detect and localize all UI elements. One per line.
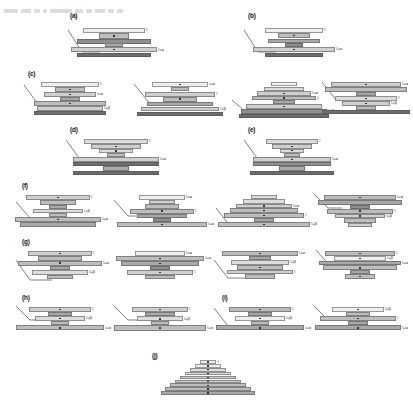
panel-h1: (h)II+βI+α bbox=[12, 294, 116, 344]
layer-label: I bbox=[195, 209, 196, 213]
center-marker-dot bbox=[59, 262, 61, 264]
layer-label: I+α bbox=[186, 195, 192, 199]
center-marker-dot bbox=[357, 327, 359, 329]
panel-f1: (f)II+βI+α bbox=[12, 182, 116, 232]
layer-label: I+β bbox=[290, 260, 296, 264]
layer-label: I bbox=[216, 92, 217, 96]
layer-label: I bbox=[317, 96, 318, 100]
layer-label: I+β bbox=[184, 317, 190, 321]
center-marker-dot bbox=[115, 146, 117, 148]
layer-bar bbox=[250, 171, 334, 175]
center-marker-dot bbox=[57, 197, 59, 199]
panel-d: (d)II+α bbox=[60, 126, 180, 176]
center-marker-dot bbox=[159, 272, 161, 274]
panel-f3: I+αII+β bbox=[214, 182, 318, 232]
center-marker-dot bbox=[59, 253, 61, 255]
layer-label: I+α bbox=[158, 48, 164, 52]
header-strip-segment bbox=[34, 9, 40, 13]
layer-label: I bbox=[394, 209, 395, 213]
layer-label: I bbox=[93, 251, 94, 255]
center-marker-dot bbox=[207, 381, 209, 383]
layer-label: I+β bbox=[286, 316, 292, 320]
center-marker-dot bbox=[207, 385, 209, 387]
center-marker-dot bbox=[263, 205, 265, 207]
panel-c4: I+αII+β bbox=[320, 70, 412, 122]
panel-c2: I+αII+β bbox=[128, 70, 238, 122]
panel-j: (j)I bbox=[160, 352, 256, 396]
layer-label: I+α bbox=[205, 256, 211, 260]
center-marker-dot bbox=[159, 327, 161, 329]
layer-label: I+α bbox=[332, 157, 338, 161]
panel-a: (a)II+α bbox=[60, 12, 180, 64]
header-strip-segment bbox=[4, 9, 18, 13]
center-marker-dot bbox=[283, 97, 285, 99]
layer-label: I+β bbox=[89, 270, 95, 274]
layer-bar bbox=[145, 275, 175, 279]
layer-label: I bbox=[398, 96, 399, 100]
center-marker-dot bbox=[113, 35, 115, 37]
center-marker-dot bbox=[207, 365, 209, 367]
layer-label: I+α bbox=[103, 261, 109, 265]
layer-label: I bbox=[146, 28, 147, 32]
center-marker-dot bbox=[207, 388, 209, 390]
layer-label: I bbox=[324, 28, 325, 32]
panel-i2: I+βII+α bbox=[312, 294, 412, 344]
layer-bar bbox=[348, 223, 372, 227]
center-marker-dot bbox=[207, 361, 209, 363]
layer-label: I bbox=[92, 307, 93, 311]
layer-label: I bbox=[292, 307, 293, 311]
layer-label: I bbox=[91, 195, 92, 199]
center-marker-dot bbox=[259, 267, 261, 269]
layer-label: I+β bbox=[385, 307, 391, 311]
layer-label: I bbox=[319, 139, 320, 143]
center-marker-dot bbox=[115, 150, 117, 152]
center-marker-dot bbox=[159, 318, 161, 320]
layer-label: I+α bbox=[397, 195, 403, 199]
layer-bar bbox=[47, 275, 73, 279]
center-marker-dot bbox=[291, 146, 293, 148]
center-marker-dot bbox=[365, 103, 367, 105]
panel-g3: I+αI+βI bbox=[212, 238, 316, 288]
center-marker-dot bbox=[59, 309, 61, 311]
layer-label: I+β bbox=[220, 107, 226, 111]
panel-e: (e)II+α bbox=[238, 126, 358, 176]
layer-bar bbox=[20, 222, 96, 227]
center-marker-dot bbox=[365, 98, 367, 100]
layer-label: I bbox=[305, 213, 306, 217]
layer-label: I+β bbox=[391, 101, 397, 105]
layer-label: I+β bbox=[386, 214, 392, 218]
layer-bar bbox=[322, 110, 410, 114]
center-marker-dot bbox=[207, 392, 209, 394]
layer-label: I+α bbox=[299, 251, 305, 255]
panel-g2: I+αI+αI bbox=[110, 238, 214, 288]
center-marker-dot bbox=[159, 309, 161, 311]
layer-label: I+α bbox=[97, 92, 103, 96]
layer-label: I+α bbox=[336, 47, 342, 51]
layer-label: I+β bbox=[84, 209, 90, 213]
layer-bar bbox=[73, 171, 159, 175]
center-marker-dot bbox=[359, 258, 361, 260]
layer-label: I+α bbox=[209, 82, 215, 86]
header-text-strip bbox=[4, 1, 174, 9]
center-marker-dot bbox=[359, 210, 361, 212]
center-marker-dot bbox=[359, 267, 361, 269]
panel-g4: II+βI+α bbox=[314, 238, 412, 288]
figure-canvas: (a)II+α(b)II+α(c)II+αI+βI+αII+βI+αII+βI+… bbox=[0, 0, 413, 400]
layer-label: I+α bbox=[160, 157, 166, 161]
layer-label: I+α bbox=[402, 261, 408, 265]
layer-label: I bbox=[149, 139, 150, 143]
center-marker-dot bbox=[283, 93, 285, 95]
panel-f2: I+αII+α bbox=[110, 182, 214, 232]
layer-label: I+β bbox=[86, 316, 92, 320]
panel-g1: (g)II+αI+β bbox=[12, 238, 116, 288]
layer-label: I bbox=[396, 251, 397, 255]
layer-bar bbox=[245, 274, 275, 278]
center-marker-dot bbox=[263, 215, 265, 217]
layer-bar bbox=[137, 112, 223, 116]
layer-label: I+α bbox=[402, 82, 408, 86]
header-strip-segment bbox=[43, 9, 47, 13]
center-marker-dot bbox=[359, 253, 361, 255]
panel-h2: II+βI+α bbox=[110, 294, 214, 344]
layer-bar bbox=[239, 114, 329, 118]
center-marker-dot bbox=[357, 309, 359, 311]
